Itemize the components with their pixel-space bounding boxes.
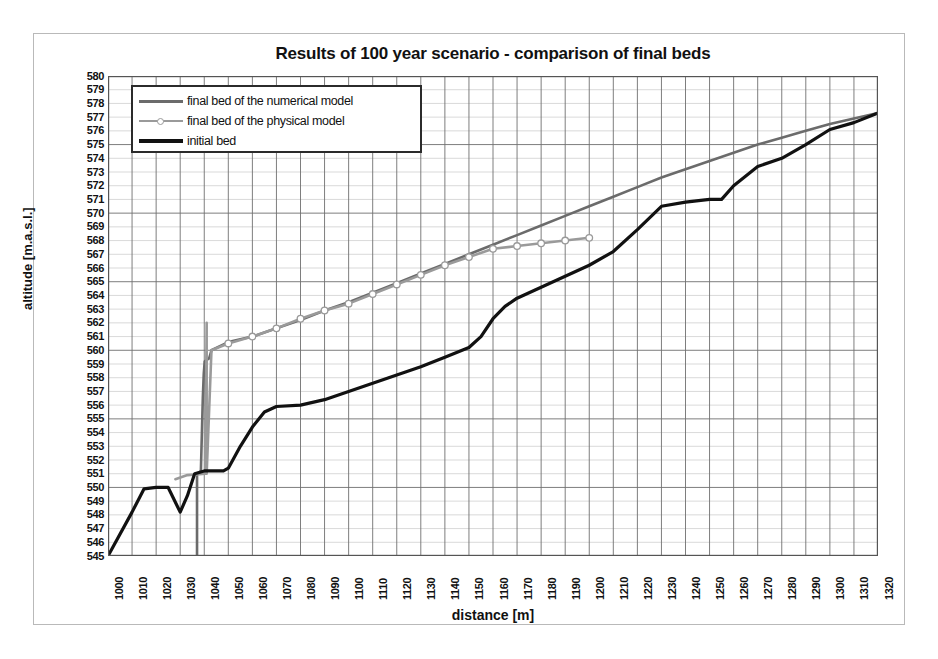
y-tick-label: 567 (60, 249, 104, 260)
y-axis-title: altitude [m.a.s.l.] (20, 207, 35, 310)
y-axis-tick-labels: 5455465475485495505515525535545555565575… (56, 76, 104, 556)
series-marker (345, 300, 352, 307)
legend-item: final bed of the physical model (139, 111, 344, 131)
y-tick-label: 569 (60, 221, 104, 232)
x-tick-label: 1320 (883, 577, 895, 600)
x-tick-label: 1180 (546, 578, 558, 600)
legend-label: initial bed (187, 134, 236, 148)
y-tick-label: 546 (60, 537, 104, 548)
legend-label: final bed of the numerical model (187, 94, 353, 108)
x-tick-label: 1310 (858, 577, 870, 600)
y-tick-label: 568 (60, 235, 104, 246)
x-tick-label: 1060 (257, 577, 269, 600)
series-marker (369, 291, 376, 298)
x-tick-label: 1250 (714, 577, 726, 600)
x-axis-title: distance [m] (108, 607, 878, 623)
x-tick-label: 1130 (425, 578, 437, 600)
x-tick-label: 1210 (618, 577, 630, 600)
series-marker (225, 340, 232, 347)
x-tick-label: 1290 (810, 577, 822, 600)
screenshot-root: Results of 100 year scenario - compariso… (0, 0, 938, 659)
y-tick-label: 560 (60, 345, 104, 356)
series-marker (514, 243, 521, 250)
y-tick-label: 570 (60, 208, 104, 219)
y-tick-label: 575 (60, 139, 104, 150)
x-tick-label: 1040 (209, 577, 221, 600)
y-tick-label: 579 (60, 84, 104, 95)
series-marker (442, 262, 449, 269)
series-marker (586, 235, 593, 242)
y-tick-label: 547 (60, 523, 104, 534)
series-marker (249, 333, 256, 340)
series-marker (418, 272, 425, 279)
y-tick-label: 553 (60, 441, 104, 452)
y-tick-label: 552 (60, 455, 104, 466)
x-tick-label: 1140 (449, 578, 461, 600)
x-tick-label: 1270 (762, 577, 774, 600)
series-marker (273, 325, 280, 332)
x-axis-tick-labels: 1000101010201030104010501060107010801090… (108, 560, 878, 608)
x-tick-label: 1170 (522, 578, 534, 600)
legend-swatch (139, 95, 183, 107)
y-tick-label: 550 (60, 482, 104, 493)
legend-item: final bed of the numerical model (139, 91, 353, 111)
y-tick-label: 565 (60, 276, 104, 287)
y-tick-label: 576 (60, 125, 104, 136)
series-marker (297, 315, 304, 322)
x-tick-label: 1230 (666, 577, 678, 600)
y-tick-label: 559 (60, 359, 104, 370)
y-tick-label: 557 (60, 386, 104, 397)
y-tick-label: 578 (60, 98, 104, 109)
series-marker (466, 254, 473, 261)
x-tick-label: 1220 (642, 577, 654, 600)
legend-marker-icon (157, 118, 164, 125)
x-tick-label: 1160 (498, 578, 510, 600)
x-tick-label: 1010 (137, 577, 149, 600)
y-tick-label: 572 (60, 180, 104, 191)
y-tick-label: 571 (60, 194, 104, 205)
y-tick-label: 555 (60, 413, 104, 424)
y-tick-label: 566 (60, 263, 104, 274)
series-marker (321, 307, 328, 314)
legend-item: initial bed (139, 131, 236, 151)
legend-swatch (139, 135, 183, 147)
y-tick-label: 558 (60, 372, 104, 383)
x-tick-label: 1080 (305, 577, 317, 600)
y-tick-label: 556 (60, 400, 104, 411)
y-tick-label: 564 (60, 290, 104, 301)
y-tick-label: 549 (60, 496, 104, 507)
x-tick-label: 1120 (401, 578, 413, 600)
page-title: Results of 100 year scenario - compariso… (108, 44, 878, 64)
y-tick-label: 548 (60, 509, 104, 520)
y-tick-label: 554 (60, 427, 104, 438)
series-marker (490, 246, 497, 253)
y-tick-label: 573 (60, 167, 104, 178)
y-tick-label: 551 (60, 468, 104, 479)
chart-legend: final bed of the numerical modelfinal be… (131, 85, 422, 153)
x-tick-label: 1150 (473, 578, 485, 600)
x-tick-label: 1110 (377, 578, 389, 600)
x-tick-label: 1300 (834, 577, 846, 600)
x-tick-label: 1190 (570, 578, 582, 600)
series-marker (538, 240, 545, 247)
x-tick-label: 1090 (329, 577, 341, 600)
y-tick-label: 577 (60, 112, 104, 123)
y-tick-label: 574 (60, 153, 104, 164)
y-tick-label: 580 (60, 71, 104, 82)
x-tick-label: 1240 (690, 577, 702, 600)
x-tick-label: 1030 (185, 577, 197, 600)
x-tick-label: 1200 (594, 577, 606, 600)
legend-label: final bed of the physical model (187, 114, 344, 128)
y-tick-label: 545 (60, 551, 104, 562)
x-tick-label: 1070 (281, 577, 293, 600)
series-marker (393, 281, 400, 288)
x-tick-label: 1000 (113, 577, 125, 600)
x-tick-label: 1280 (786, 577, 798, 600)
y-tick-label: 563 (60, 304, 104, 315)
x-tick-label: 1050 (233, 577, 245, 600)
x-tick-label: 1020 (161, 577, 173, 600)
series-marker (562, 237, 569, 244)
y-tick-label: 562 (60, 317, 104, 328)
x-tick-label: 1260 (738, 577, 750, 600)
y-tick-label: 561 (60, 331, 104, 342)
